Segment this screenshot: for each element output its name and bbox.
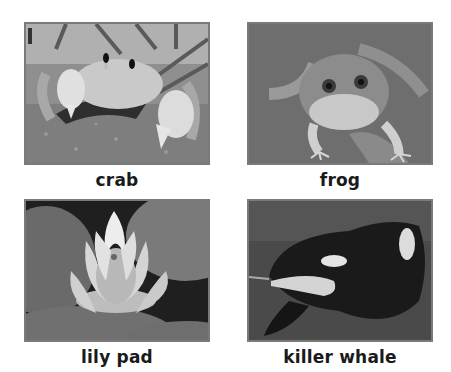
crab-image xyxy=(26,24,208,163)
crab-photo xyxy=(24,22,210,165)
frog-image xyxy=(249,24,431,163)
killer-whale-image xyxy=(249,201,431,340)
lily-pad-image xyxy=(26,201,208,340)
killer-whale-photo xyxy=(247,199,433,342)
frog-photo xyxy=(247,22,433,165)
caption-lily-pad: lily pad xyxy=(4,347,230,367)
caption-crab: crab xyxy=(4,170,230,190)
lily-pad-photo xyxy=(24,199,210,342)
caption-killer-whale: killer whale xyxy=(227,347,451,367)
caption-frog: frog xyxy=(227,170,451,190)
